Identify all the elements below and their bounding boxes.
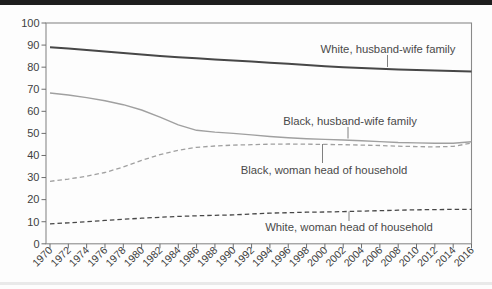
y-tick-label: 40 xyxy=(27,149,39,161)
y-tick-label: 0 xyxy=(33,238,39,250)
y-tick-label: 30 xyxy=(27,171,39,183)
y-tick-label: 10 xyxy=(27,216,39,228)
y-tick-label: 80 xyxy=(27,61,39,73)
plot-frame xyxy=(46,23,472,244)
y-tick-label: 90 xyxy=(27,39,39,51)
chart-page: 0102030405060708090100197019721974197619… xyxy=(0,0,492,289)
annotation-label-white-husband-wife-family: White, husband-wife family xyxy=(321,43,456,55)
annotation-label-black-woman-head-of-household: Black, woman head of household xyxy=(241,164,407,176)
page-edge-smudge xyxy=(0,282,492,285)
annotation-label-black-husband-wife-family: Black, husband-wife family xyxy=(283,115,417,127)
y-tick-label: 20 xyxy=(27,193,39,205)
family-type-line-chart: 0102030405060708090100197019721974197619… xyxy=(0,0,492,289)
x-tick-label: 2016 xyxy=(451,244,476,269)
y-tick-label: 70 xyxy=(27,83,39,95)
y-tick-label: 100 xyxy=(21,17,39,29)
annotation-label-white-woman-head-of-household: White, woman head of household xyxy=(265,221,433,233)
y-tick-label: 50 xyxy=(27,127,39,139)
y-tick-label: 60 xyxy=(27,105,39,117)
